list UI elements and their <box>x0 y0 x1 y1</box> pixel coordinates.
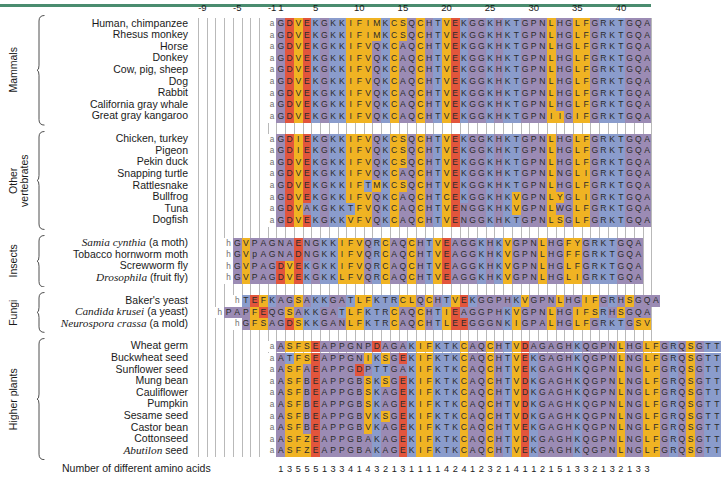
residue-cell: N <box>538 41 547 53</box>
residue-cell: K <box>451 445 460 457</box>
residue-cell: F <box>582 203 591 215</box>
residue-cell: V <box>294 157 303 169</box>
residue-cell: H <box>416 249 425 261</box>
residue-cell: V <box>364 168 373 180</box>
residue-cell: E <box>460 295 469 307</box>
residue-cell: L <box>643 387 652 399</box>
residue-cell: P <box>329 387 338 399</box>
residue-cell: G <box>590 111 599 123</box>
count-value: 4 <box>346 463 355 475</box>
residue-cell: F <box>294 376 303 388</box>
residue-cell: G <box>276 192 285 204</box>
residue-cell: E <box>399 353 408 365</box>
residue-cell: N <box>608 422 617 434</box>
residue-cell: G <box>590 180 599 192</box>
residue-cell: F <box>294 411 303 423</box>
sequence-leader: a <box>268 215 277 227</box>
residue-cell: L <box>346 318 355 330</box>
residue-cell: C <box>407 249 416 261</box>
residue-cell: K <box>311 145 320 157</box>
residue-cell: G <box>695 341 704 353</box>
count-value: 1 <box>407 463 416 475</box>
residue-cell: I <box>442 307 451 319</box>
residue-cell: H <box>486 272 495 284</box>
residue-cell: G <box>695 411 704 423</box>
residue-cell: I <box>582 295 591 307</box>
residue-cell: Q <box>372 111 381 123</box>
residue-cell: A <box>399 88 408 100</box>
residue-cell: V <box>294 168 303 180</box>
residue-cell: H <box>556 318 565 330</box>
residue-cell: K <box>303 261 312 273</box>
residue-cell: A <box>468 376 477 388</box>
residue-cell: K <box>477 261 486 273</box>
residue-cell: G <box>660 399 669 411</box>
residue-cell: p <box>250 249 259 261</box>
residue-cell: G <box>233 238 242 250</box>
residue-cell: P <box>599 364 608 376</box>
residue-cell: Q <box>268 307 277 319</box>
species-label: Dogfish <box>152 214 188 226</box>
residue-cell: C <box>460 411 469 423</box>
residue-cell: F <box>651 387 660 399</box>
residue-cell: K <box>573 376 582 388</box>
residue-cell: C <box>486 387 495 399</box>
residue-cell: A <box>468 341 477 353</box>
residue-cell: D <box>285 111 294 123</box>
residue-cell: R <box>669 364 678 376</box>
residue-cell: P <box>529 64 538 76</box>
residue-cell: E <box>442 238 451 250</box>
residue-cell: Q <box>582 353 591 365</box>
count-value: 1 <box>276 463 285 475</box>
residue-cell: Q <box>582 434 591 446</box>
residue-cell: S <box>285 387 294 399</box>
residue-cell: L <box>573 30 582 42</box>
axis-tick-20: 20 <box>441 2 452 13</box>
residue-cell: K <box>381 99 390 111</box>
residue-cell: G <box>311 261 320 273</box>
residue-cell: L <box>617 434 626 446</box>
residue-cell: S <box>285 341 294 353</box>
residue-cell: L <box>442 318 451 330</box>
residue-cell: C <box>416 203 425 215</box>
residue-cell: R <box>599 307 608 319</box>
residue-cell: K <box>338 53 347 65</box>
residue-cell: E <box>399 445 408 457</box>
residue-cell: G <box>695 399 704 411</box>
residue-cell: C <box>390 76 399 88</box>
residue-cell: E <box>311 353 320 365</box>
residue-cell: K <box>608 18 617 30</box>
residue-cell: E <box>399 399 408 411</box>
residue-cell: G <box>564 192 573 204</box>
residue-cell: L <box>573 145 582 157</box>
residue-cell: Q <box>372 203 381 215</box>
residue-cell: G <box>477 111 486 123</box>
residue-cell: E <box>451 145 460 157</box>
residue-cell: T <box>512 168 521 180</box>
residue-cell: G <box>468 76 477 88</box>
residue-cell: T <box>425 238 434 250</box>
residue-cell: G <box>634 364 643 376</box>
residue-cell: G <box>521 76 530 88</box>
residue-cell: I <box>416 399 425 411</box>
sequence-leader: a <box>268 445 277 457</box>
residue-cell: A <box>643 157 652 169</box>
residue-cell: C <box>390 180 399 192</box>
residue-cell: V <box>512 411 521 423</box>
residue-cell: G <box>268 249 277 261</box>
residue-cell: G <box>346 341 355 353</box>
residue-cell: D <box>285 99 294 111</box>
residue-cell: T <box>442 353 451 365</box>
residue-cell: G <box>590 434 599 446</box>
residue-cell: H <box>494 353 503 365</box>
residue-cell: K <box>460 18 469 30</box>
residue-cell: T <box>617 145 626 157</box>
residue-cell: K <box>608 157 617 169</box>
residue-cell: D <box>285 168 294 180</box>
residue-cell: G <box>556 411 565 423</box>
residue-cell: G <box>320 111 329 123</box>
residue-cell: K <box>311 307 320 319</box>
residue-cell: K <box>311 18 320 30</box>
residue-cell: N <box>608 341 617 353</box>
residue-cell: T <box>512 111 521 123</box>
